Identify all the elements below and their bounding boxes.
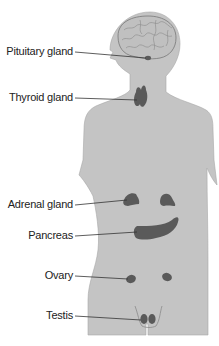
testis-right — [148, 314, 155, 324]
label-testis: Testis — [46, 309, 73, 322]
label-pituitary-gland: Pituitary gland — [6, 45, 73, 58]
label-adrenal-gland: Adrenal gland — [8, 198, 73, 211]
brain — [118, 16, 176, 59]
label-ovary: Ovary — [45, 269, 73, 282]
body-silhouette — [79, 12, 217, 335]
testis-left — [140, 314, 147, 324]
label-pancreas: Pancreas — [28, 229, 73, 242]
label-thyroid-gland: Thyroid gland — [9, 91, 73, 104]
